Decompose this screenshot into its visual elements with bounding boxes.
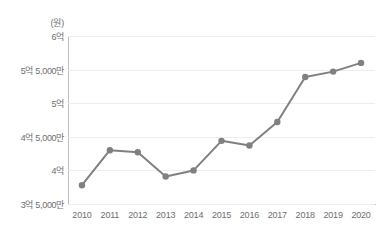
y-tick-label: 4억 [0, 164, 64, 177]
y-axis-unit-label: (원) [0, 16, 68, 29]
x-tick-label: 2014 [184, 210, 203, 220]
gridline [68, 204, 375, 205]
x-tick-label: 2020 [351, 210, 370, 220]
data-point-marker: 2014: 4억 [190, 167, 196, 173]
data-point-marker: 2020: 5억 6,000만 [358, 60, 364, 66]
y-tick-label: 5억 [0, 97, 64, 110]
x-tick-label: 2012 [128, 210, 147, 220]
x-tick-label: 2015 [212, 210, 231, 220]
data-point-marker: 2019: 5억 4,700만 [330, 68, 336, 74]
data-point-marker: 2010: 3억 7,800만 [79, 182, 85, 188]
line-chart: (원) 6억5억 5,000만5억4억 5,000만4억3억 5,000만 20… [0, 0, 388, 235]
data-point-marker: 2013: 3억 9,100만 [162, 173, 168, 179]
y-tick-label: 5억 5,000만 [0, 63, 64, 76]
series-line: 2010: 3억 7,800만2011: 4억 3,000만2012: 4억 2… [68, 36, 375, 204]
y-tick-label: 4억 5,000만 [0, 130, 64, 143]
series-markers: 2010: 3억 7,800만2011: 4억 3,000만2012: 4억 2… [79, 60, 364, 189]
y-tick-label: 6억 [0, 30, 64, 43]
x-tick-label: 2010 [72, 210, 91, 220]
series-polyline [82, 63, 361, 185]
data-point-marker: 2015: 4억 4,400만 [218, 138, 224, 144]
x-tick-label: 2018 [296, 210, 315, 220]
x-tick-label: 2017 [268, 210, 287, 220]
data-point-marker: 2016: 4억 3,700만 [246, 142, 252, 148]
x-tick-label: 2016 [240, 210, 259, 220]
x-tick-label: 2013 [156, 210, 175, 220]
data-point-marker: 2017: 4억 7,200만 [274, 119, 280, 125]
y-tick-label: 3억 5,000만 [0, 198, 64, 211]
x-tick-label: 2019 [324, 210, 343, 220]
data-point-marker: 2018: 5억 3,900만 [302, 74, 308, 80]
data-point-marker: 2011: 4억 3,000만 [107, 147, 113, 153]
x-tick-label: 2011 [101, 210, 120, 220]
plot-area: 2010: 3억 7,800만2011: 4억 3,000만2012: 4억 2… [68, 36, 375, 204]
data-point-marker: 2012: 4억 2,700만 [135, 149, 141, 155]
